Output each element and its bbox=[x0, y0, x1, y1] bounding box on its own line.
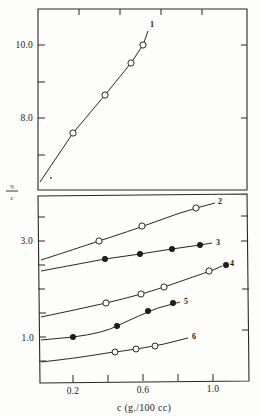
curve-label-4-marker bbox=[223, 262, 228, 267]
data-point bbox=[137, 251, 142, 256]
data-point bbox=[96, 238, 102, 244]
upper-panel: 10.0 8.0 1 bbox=[16, 9, 247, 190]
upper-ytick-label-10: 10.0 bbox=[16, 40, 33, 50]
data-point bbox=[102, 92, 108, 98]
lower-panel-bottom-ticks bbox=[73, 374, 213, 382]
curve-label-6: 6 bbox=[192, 332, 196, 341]
curve-4 bbox=[41, 266, 222, 317]
xtick-label-02: 0.2 bbox=[67, 386, 80, 396]
viscosity-figure: 10.0 8.0 1 η c bbox=[0, 0, 260, 416]
curve-label-2: 2 bbox=[218, 197, 222, 206]
lower-ytick-label-3: 3.0 bbox=[21, 236, 34, 246]
data-point bbox=[170, 300, 175, 305]
lower-panel-frame bbox=[38, 194, 249, 383]
data-point bbox=[128, 60, 134, 66]
scan-speck bbox=[50, 177, 52, 179]
data-point bbox=[197, 242, 202, 247]
x-axis-title: c (g./100 cc) bbox=[117, 402, 171, 414]
data-point bbox=[103, 300, 109, 306]
data-point bbox=[145, 308, 150, 313]
data-point bbox=[102, 256, 107, 261]
y-axis-title: η c bbox=[6, 182, 18, 201]
y-axis-title-denominator: c bbox=[11, 194, 14, 201]
data-point bbox=[140, 42, 146, 48]
curve-3 bbox=[41, 242, 212, 271]
upper-panel-top-ticks bbox=[79, 9, 202, 15]
lower-ytick-label-1: 1.0 bbox=[22, 333, 35, 343]
data-point bbox=[114, 323, 119, 328]
upper-panel-frame bbox=[38, 9, 247, 190]
curve-label-5: 5 bbox=[184, 297, 188, 306]
curve-6 bbox=[41, 338, 188, 362]
xtick-label-06: 0.6 bbox=[137, 385, 150, 395]
data-point bbox=[138, 291, 144, 297]
curve-label-3: 3 bbox=[216, 238, 220, 247]
upper-panel-left-ticks bbox=[38, 45, 45, 155]
data-point bbox=[112, 349, 118, 355]
upper-panel-right-ticks bbox=[241, 45, 247, 118]
y-axis-title-numerator: η bbox=[10, 182, 14, 189]
data-point bbox=[193, 205, 199, 211]
data-point bbox=[139, 223, 145, 229]
data-point bbox=[161, 284, 167, 290]
data-point bbox=[206, 268, 212, 274]
curve-5 bbox=[41, 300, 180, 340]
xtick-label-10: 1.0 bbox=[207, 384, 220, 394]
data-point bbox=[152, 343, 158, 349]
data-point bbox=[70, 130, 76, 136]
curve-label-4: 4 bbox=[230, 259, 234, 268]
data-point bbox=[169, 246, 174, 251]
data-point bbox=[70, 334, 75, 339]
lower-panel: 3.0 1.0 0.2 0.6 1.0 2 3 bbox=[21, 194, 249, 396]
curve-1 bbox=[40, 31, 148, 182]
curve-label-1: 1 bbox=[150, 20, 154, 29]
curve-2 bbox=[41, 203, 215, 260]
figure-canvas: 10.0 8.0 1 η c bbox=[0, 0, 260, 416]
upper-ytick-label-8: 8.0 bbox=[21, 113, 34, 123]
data-point bbox=[133, 346, 139, 352]
